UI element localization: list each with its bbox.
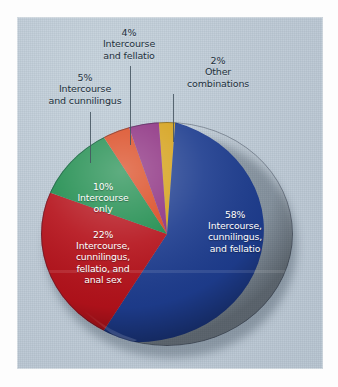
slice-percent-other-combinations: 2% [162, 55, 274, 66]
slice-text-line-1: Intercourse [57, 192, 149, 203]
slice-text-line-3: fellatio, and [47, 263, 159, 274]
slice-text-line-3: and fellatio [175, 243, 295, 254]
leader-line-other-combinations [173, 94, 174, 142]
slice-text-line-2: cunnilingus, [175, 231, 295, 242]
slice-label-intercourse-and-cunnilingus: 5% Intercourse and cunnilingus [15, 72, 155, 106]
slice-percent-main: 58% [175, 209, 295, 220]
slice-text-line-4: anal sex [47, 274, 159, 285]
slice-percent-intercourse-and-fellatio: 4% [69, 27, 189, 38]
slice-percent-anal: 22% [47, 229, 159, 240]
pie-chart: 4% Intercourse and fellatio 2% Other com… [17, 17, 323, 369]
slice-text-line-1: Intercourse, [175, 220, 295, 231]
slice-text-line-1: Intercourse [15, 83, 155, 94]
leader-line-intercourse-and-cunnilingus [90, 112, 91, 163]
slice-label-intercourse-cunnilingus-fellatio-anal: 22% Intercourse, cunnilingus, fellatio, … [47, 229, 159, 285]
slice-text-line-2: cunnilingus, [47, 251, 159, 262]
slice-text-line-1: Intercourse [69, 38, 189, 49]
slice-percent-intercourse-only: 10% [57, 181, 149, 192]
slice-text-line-2: and cunnilingus [15, 95, 155, 106]
slice-label-other-combinations: 2% Other combinations [162, 55, 274, 89]
page-background: 4% Intercourse and fellatio 2% Other com… [0, 0, 338, 387]
slice-percent-intercourse-and-cunnilingus: 5% [15, 72, 155, 83]
slice-label-intercourse-only: 10% Intercourse only [57, 181, 149, 215]
slice-text-line-1: Intercourse, [47, 240, 159, 251]
chart-panel: 4% Intercourse and fellatio 2% Other com… [17, 17, 323, 369]
slice-text-line-2: combinations [162, 78, 274, 89]
slice-text-line-2: only [57, 203, 149, 214]
slice-label-intercourse-cunnilingus-fellatio: 58% Intercourse, cunnilingus, and fellat… [175, 209, 295, 254]
slice-text-line-1: Other [162, 66, 274, 77]
